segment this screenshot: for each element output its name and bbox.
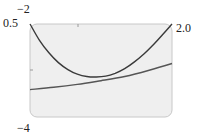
x-min-label: 0.5 [3,17,18,29]
y-max-label: −2 [17,3,30,15]
chart-plot [0,0,203,140]
y-min-label: −4 [17,122,30,134]
x-max-label: 2.0 [176,22,191,34]
